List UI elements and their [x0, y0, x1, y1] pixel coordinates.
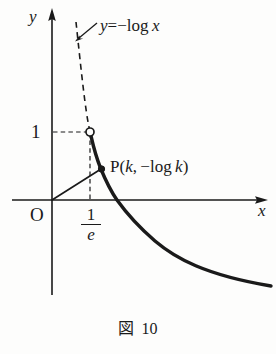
- point-p-y-function: log: [150, 157, 172, 176]
- equation-minus-sign: −: [117, 16, 127, 35]
- segment-origin-to-p: [52, 169, 101, 200]
- point-p-y-sign: −: [140, 157, 150, 176]
- point-p-comma: ,: [133, 157, 137, 176]
- equation-equals-sign: =: [108, 16, 118, 35]
- y-axis-label: y: [29, 8, 37, 25]
- fraction-denominator: e: [81, 225, 101, 243]
- fraction-numerator: 1: [81, 206, 101, 225]
- plot-canvas: [0, 0, 276, 354]
- equation-log-function: log: [127, 16, 149, 35]
- curve-equation-label: y=−log x: [100, 17, 159, 34]
- x-axis-label: x: [258, 202, 266, 219]
- point-p-marker: [98, 166, 104, 172]
- origin-label: O: [30, 205, 44, 224]
- point-p-x-coord: k: [125, 157, 133, 176]
- caption-symbol: 図: [118, 319, 135, 338]
- x-axis-tick-label-one-over-e: 1 e: [81, 206, 101, 243]
- figure-caption: 図 10: [0, 315, 276, 339]
- open-circle-marker: [86, 128, 94, 136]
- y-axis-tick-label-one: 1: [31, 122, 41, 141]
- caption-number: 10: [142, 320, 158, 337]
- equation-lhs: y: [100, 16, 108, 35]
- equation-variable: x: [152, 16, 160, 35]
- equation-leader-line: [79, 23, 97, 38]
- equation-leader-arrowhead: [75, 36, 83, 42]
- figure-container: y x 1 O 1 e P(k, −log k) y=−log x 図 10: [0, 0, 276, 354]
- point-p-label: P(k, −log k): [110, 158, 188, 175]
- point-p-y-var: k: [175, 157, 183, 176]
- point-p-close-paren: ): [183, 157, 189, 176]
